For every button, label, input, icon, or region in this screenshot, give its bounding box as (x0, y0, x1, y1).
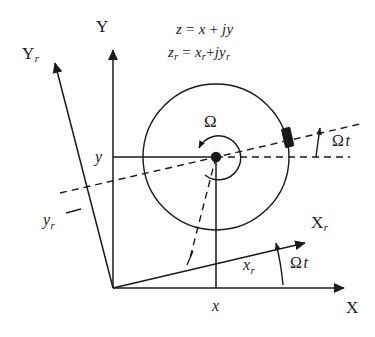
yr-axis-line (55, 63, 113, 288)
center-point-dot (211, 152, 221, 162)
yr-axis-label-text: Y (22, 44, 34, 63)
xr-axis-label-text: X (311, 213, 323, 232)
yr-axis-label-subscript: r (35, 52, 39, 64)
xr-projection-label-subscript: r (251, 264, 255, 276)
equation-2-plus: + (206, 44, 215, 60)
omega-t-lower-time: t (303, 254, 307, 271)
x-projection-label-text: x (212, 297, 219, 314)
x-axis-label-text: X (346, 298, 358, 317)
omega-t-lower-symbol: Ω (290, 254, 302, 271)
equation-1-plus: + (209, 21, 218, 37)
equation-line-2: zr = xr+jyr (168, 45, 230, 63)
equation-2-equals: = (182, 44, 191, 60)
yr-axis-label: Yr (22, 45, 39, 64)
omega-label: Ω (204, 113, 217, 130)
x-projection-label: x (212, 298, 219, 314)
y-axis-label-text: Y (96, 17, 108, 36)
omega-t-upper-time: t (345, 132, 349, 149)
xr-projection-label-text: x (243, 256, 250, 273)
xr-projection-dashed-line (190, 157, 216, 258)
omega-t-upper-label: Ωt (332, 133, 350, 149)
equation-2-real: x (195, 44, 202, 60)
xr-axis-label: Xr (311, 214, 328, 233)
xr-projection-label: xr (243, 257, 255, 276)
yr-projection-label-text: y (43, 211, 50, 228)
equation-2-lhs-subscript: r (174, 51, 178, 62)
y-projection-label: y (95, 149, 102, 165)
figure-root: z = x + jy zr = xr+jyr Y X Yr Xr y x yr … (0, 0, 375, 337)
xr-tick (187, 251, 193, 265)
equation-2-imag: jy (215, 44, 226, 60)
equation-line-1: z = x + jy (176, 22, 233, 37)
equation-1-real: x (199, 21, 206, 37)
yr-projection-label-subscript: r (51, 219, 55, 231)
yr-projection-label: yr (43, 212, 55, 231)
xr-axis-label-subscript: r (324, 221, 328, 233)
equation-1-lhs: z (176, 21, 182, 37)
rotating-marker (281, 127, 294, 147)
omega-t-lower-label: Ωt (290, 255, 308, 271)
x-axis-label: X (346, 299, 358, 316)
yr-tick (66, 209, 81, 213)
equation-2-imag-subscript: r (226, 51, 230, 62)
omega-t-upper-arc (316, 128, 320, 157)
equation-1-imag: jy (222, 21, 233, 37)
equation-1-equals: = (186, 21, 195, 37)
omega-symbol: Ω (204, 112, 217, 131)
y-projection-label-text: y (95, 148, 102, 165)
xr-axis-line (113, 243, 305, 288)
omega-t-upper-symbol: Ω (332, 132, 344, 149)
y-axis-label: Y (96, 18, 108, 35)
